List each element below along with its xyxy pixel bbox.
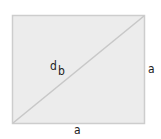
right-side-label: a — [148, 63, 155, 75]
diagonal-label-b: b — [58, 65, 65, 77]
rectangle-diagram: d b a a — [0, 0, 161, 139]
rectangle-figure — [0, 0, 161, 139]
diagonal-label-d: d — [50, 60, 57, 72]
bottom-side-label: a — [74, 124, 81, 136]
